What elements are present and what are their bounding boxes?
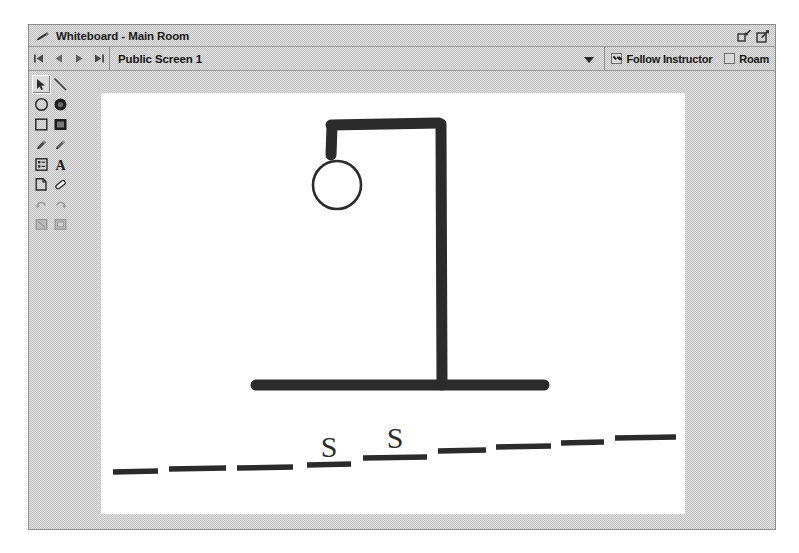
first-screen-button[interactable] <box>29 47 49 70</box>
tool-row <box>32 95 71 115</box>
last-screen-button[interactable] <box>89 47 109 70</box>
canvas-viewport: S S <box>73 71 775 529</box>
word-slot-6 <box>438 450 486 451</box>
word-letter-5: S <box>387 421 404 454</box>
word-slot-1 <box>113 471 158 472</box>
hangman-head <box>313 161 361 209</box>
previous-screen-button[interactable] <box>49 47 69 70</box>
clear-board-tool[interactable] <box>32 215 51 234</box>
gallows-upright-post <box>441 124 442 385</box>
drawing-tool-palette: A <box>29 71 73 529</box>
eraser-tool[interactable] <box>52 175 71 194</box>
undo-tool[interactable] <box>32 195 51 214</box>
follow-instructor-label: Follow Instructor <box>626 53 712 65</box>
window-title-bar: Whiteboard - Main Room <box>29 25 775 47</box>
tool-row: A <box>32 155 71 175</box>
tool-row <box>32 115 71 135</box>
maximize-window-button[interactable] <box>756 29 771 43</box>
gallows-drawing <box>256 123 544 385</box>
screen-selector-value: Public Screen 1 <box>118 53 202 65</box>
select-tool[interactable] <box>32 75 51 94</box>
ellipse-outline-tool[interactable] <box>32 95 51 114</box>
hangman-rope <box>331 126 332 155</box>
gallows-top-beam <box>331 123 439 125</box>
rectangle-filled-tool[interactable] <box>52 115 71 134</box>
word-slot-4 <box>307 464 351 465</box>
word-slot-7 <box>496 446 551 447</box>
word-slot-3 <box>237 467 293 468</box>
tool-row <box>32 175 71 195</box>
roam-label: Roam <box>739 53 769 65</box>
new-page-tool[interactable] <box>32 175 51 194</box>
tool-row <box>32 195 71 215</box>
word-slot-2 <box>169 468 226 469</box>
whiteboard-drawing-area[interactable]: S S <box>101 93 685 514</box>
restore-window-button[interactable] <box>737 29 752 43</box>
screen-navigation-bar: Public Screen 1 Follow Instructor Roam <box>29 47 775 71</box>
tool-row <box>32 75 71 95</box>
follow-instructor-checkbox[interactable]: Follow Instructor <box>605 47 718 70</box>
next-screen-button[interactable] <box>69 47 89 70</box>
redo-tool[interactable] <box>52 195 71 214</box>
print-tool[interactable] <box>52 215 71 234</box>
hangman-sketch: S S <box>101 93 685 514</box>
screenshot-root: Whiteboard - Main Room <box>0 0 799 553</box>
word-letter-4: S <box>321 430 338 463</box>
follow-instructor-checkbox-box[interactable] <box>611 53 622 64</box>
tool-row <box>32 215 71 235</box>
screen-selector-dropdown[interactable]: Public Screen 1 <box>109 47 605 70</box>
tool-row <box>32 135 71 155</box>
word-puzzle: S S <box>113 421 676 472</box>
marker-tool[interactable] <box>32 135 51 154</box>
ellipse-filled-tool[interactable] <box>52 95 71 114</box>
text-tool[interactable]: A <box>52 155 71 174</box>
chevron-down-icon <box>584 57 594 63</box>
roam-checkbox[interactable]: Roam <box>718 47 775 70</box>
pencil-tool[interactable] <box>52 135 71 154</box>
pencil-icon <box>35 29 51 43</box>
svg-text:A: A <box>56 158 67 172</box>
word-slot-8 <box>561 442 604 443</box>
word-slot-9 <box>615 437 676 438</box>
line-tool[interactable] <box>52 75 70 94</box>
rectangle-outline-tool[interactable] <box>32 115 51 134</box>
whiteboard-window: Whiteboard - Main Room <box>28 24 776 530</box>
word-slot-5 <box>363 457 427 458</box>
window-title: Whiteboard - Main Room <box>56 30 189 42</box>
roam-checkbox-box[interactable] <box>724 53 735 64</box>
insert-object-tool[interactable] <box>32 155 51 174</box>
